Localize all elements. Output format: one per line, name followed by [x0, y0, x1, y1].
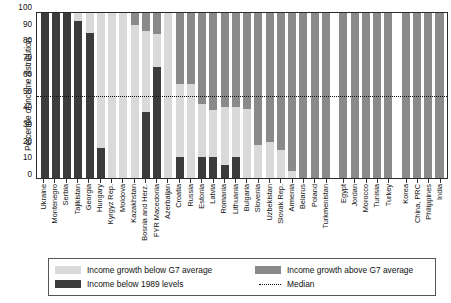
x-tick-label: Bosnia and Herz. — [142, 184, 149, 241]
x-tick-label: Georgia — [85, 184, 92, 210]
x-tick-label: Hungary — [96, 184, 103, 212]
x-label-slot: Bosnia and Herz. — [140, 184, 151, 250]
bar-segment-below — [131, 25, 139, 178]
legend-swatch-growth-below-g7 — [55, 266, 81, 274]
x-label-slot: Philippines — [423, 184, 434, 250]
x-tickmark — [320, 179, 331, 183]
bar-segment-below — [97, 13, 105, 148]
legend-label-growth-below-g7: Income growth below G7 average — [87, 266, 212, 275]
x-label-slot: India — [435, 184, 446, 250]
chart-legend: Income growth below G7 average Income gr… — [48, 258, 436, 296]
x-axis-labels: UkraineMontenegroSerbiaTajikistanGeorgia… — [36, 184, 448, 250]
x-tickmark — [219, 179, 230, 183]
x-label-slot: Tunisia — [372, 184, 383, 250]
x-label-slot: Jordan — [349, 184, 360, 250]
bar-segment-b89 — [176, 157, 184, 178]
bar-segment-b89 — [74, 21, 82, 178]
x-label-slot: Slovenia — [253, 184, 264, 250]
x-tick-label: Tunisia — [374, 184, 381, 208]
x-tickmark — [106, 179, 117, 183]
x-label-slot: Bulgaria — [241, 184, 252, 250]
bar-segment-below — [277, 150, 285, 178]
x-tickmark — [61, 179, 72, 183]
x-tickmark — [383, 179, 394, 183]
legend-label-below-1989: Income below 1989 levels — [87, 280, 183, 289]
x-tickmark — [117, 179, 128, 183]
x-tickmark — [174, 179, 185, 183]
x-tick-label: Croatia — [176, 184, 183, 208]
x-label-slot: Poland — [309, 184, 320, 250]
x-label-slot: Morocco — [361, 184, 372, 250]
bar-segment-below — [153, 34, 161, 67]
x-tick-label: Slovenia — [255, 184, 262, 212]
x-label-slot: Serbia — [61, 184, 72, 250]
x-label-slot: Georgia — [83, 184, 94, 250]
bar-segment-above — [198, 13, 206, 104]
y-tick-100: 100 — [8, 4, 32, 12]
x-label-slot: Armenia — [287, 184, 298, 250]
x-tick-label: Serbia — [63, 184, 70, 205]
x-tick-label: Latvia — [209, 184, 216, 204]
x-label-slot: Ukraine — [38, 184, 49, 250]
x-label-slot: Slovak Rep. — [275, 184, 286, 250]
x-tickmark — [72, 179, 83, 183]
x-label-slot: Hungary — [94, 184, 105, 250]
x-tickmark — [287, 179, 298, 183]
x-tickmark — [253, 179, 264, 183]
x-tick-label: Moldova — [119, 184, 126, 212]
x-tickmark — [162, 179, 173, 183]
x-tickmark — [309, 179, 320, 183]
x-tickmark — [151, 179, 162, 183]
x-tick-label: Slovak Rep. — [277, 184, 284, 224]
x-label-slot: Russia — [185, 184, 196, 250]
x-tick-label: Russia — [187, 184, 194, 207]
x-tickmark — [275, 179, 286, 183]
y-tick-20: 20 — [8, 138, 32, 146]
bar-segment-below — [288, 171, 296, 178]
bar-segment-below — [187, 84, 195, 178]
bar-segment-below — [266, 142, 274, 178]
bar-segment-below — [254, 145, 262, 178]
legend-swatch-median — [259, 284, 281, 285]
x-label-slot: Egypt — [338, 184, 349, 250]
x-tick-label: Kazakhstan — [130, 184, 137, 223]
bar-segment-below — [198, 104, 206, 157]
legend-label-growth-above-g7: Income growth above G7 average — [287, 266, 413, 275]
x-tick-label: Ukraine — [40, 184, 47, 209]
bar-segment-above — [153, 13, 161, 34]
x-tick-label: Korea — [403, 184, 410, 204]
x-label-slot: Uzbekistan — [264, 184, 275, 250]
x-label-slot: China, PRC — [412, 184, 423, 250]
bar-segment-above — [288, 13, 296, 171]
y-tick-30: 30 — [8, 121, 32, 129]
bar-segment-below — [142, 31, 150, 112]
x-tick-label: FYR Macedonia — [153, 184, 160, 237]
x-tickmark — [423, 179, 434, 183]
x-label-slot: Korea — [401, 184, 412, 250]
x-tick-label: Romania — [221, 184, 228, 214]
y-tick-90: 90 — [8, 21, 32, 29]
bar-segment-above — [142, 13, 150, 31]
bar-segment-above — [176, 13, 184, 84]
x-tickmark — [207, 179, 218, 183]
x-tick-label: Bulgaria — [243, 184, 250, 211]
x-tick-label: Lithuania — [232, 184, 239, 214]
x-tick-label: India — [436, 184, 443, 200]
legend-item-median: Median — [255, 280, 314, 289]
bar-segment-b89 — [221, 165, 229, 178]
x-tickmark — [349, 179, 360, 183]
bar-segment-below — [221, 107, 229, 165]
x-label-slot: Belarus — [298, 184, 309, 250]
x-label-slot: Romania — [219, 184, 230, 250]
x-tickmark — [401, 179, 412, 183]
y-tick-60: 60 — [8, 71, 32, 79]
x-tick-label: Tajikistan — [74, 184, 81, 214]
x-label-slot: Montenegro — [49, 184, 60, 250]
y-tick-40: 40 — [8, 104, 32, 112]
plot-area — [36, 12, 448, 179]
legend-row-2: Income below 1989 levels Median — [55, 277, 429, 291]
legend-swatch-below-1989 — [55, 280, 81, 288]
x-tick-label: Philippines — [425, 184, 432, 220]
x-tick-label: Turkey — [385, 184, 392, 206]
bar-segment-above — [266, 13, 274, 142]
